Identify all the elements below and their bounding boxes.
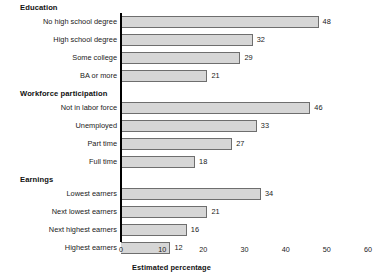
chart-row: Unemployed33 (0, 120, 379, 132)
bar-value-label: 33 (261, 120, 269, 132)
category-label: Full time (89, 156, 117, 168)
bar (121, 156, 195, 168)
value-axis-line (120, 13, 122, 242)
chart-row: Next highest earners16 (0, 224, 379, 236)
group-header: Workforce participation (20, 89, 107, 98)
bar-value-label: 18 (199, 156, 207, 168)
bar-value-label: 21 (211, 70, 219, 82)
chart-row: Part time27 (0, 138, 379, 150)
bar-value-label: 48 (323, 16, 331, 28)
bar-value-label: 21 (211, 206, 219, 218)
chart-row: Next lowest earners21 (0, 206, 379, 218)
category-label: Some college (72, 52, 117, 64)
x-tick-label: 10 (150, 245, 174, 254)
bar-value-label: 16 (191, 224, 199, 236)
bar-value-label: 34 (265, 188, 273, 200)
category-label: Next highest earners (49, 224, 117, 236)
category-label: No high school degree (43, 16, 117, 28)
chart-row: BA or more21 (0, 70, 379, 82)
chart-row: Lowest earners34 (0, 188, 379, 200)
x-tick-label: 50 (315, 245, 339, 254)
x-tick-label: 20 (191, 245, 215, 254)
bar (121, 70, 207, 82)
chart-row: Not in labor force46 (0, 102, 379, 114)
chart-row: Some college29 (0, 52, 379, 64)
x-tick-label: 30 (233, 245, 257, 254)
chart-row: No high school degree48 (0, 16, 379, 28)
bar (121, 138, 232, 150)
category-label: Not in labor force (61, 102, 117, 114)
category-label: BA or more (80, 70, 117, 82)
x-tick-label: 60 (356, 245, 379, 254)
x-tick-label: 0 (109, 245, 133, 254)
bar (121, 52, 240, 64)
x-axis-title-text: Estimated percentage (132, 263, 211, 272)
category-label: Lowest earners (66, 188, 117, 200)
bar (121, 102, 310, 114)
x-axis-baseline (121, 242, 368, 243)
bar-value-label: 29 (244, 52, 252, 64)
bar (121, 16, 319, 28)
chart-row: Full time18 (0, 156, 379, 168)
bar (121, 206, 207, 218)
bar-value-label: 12 (174, 242, 182, 254)
bar (121, 34, 253, 46)
bar (121, 120, 257, 132)
bar (121, 224, 187, 236)
category-label: High school degree (53, 34, 117, 46)
category-label: Unemployed (76, 120, 118, 132)
bar-chart: EducationNo high school degree48High sch… (0, 0, 379, 279)
bar-value-label: 32 (257, 34, 265, 46)
plot-area: EducationNo high school degree48High sch… (0, 0, 379, 279)
category-label: Next lowest earners (52, 206, 117, 218)
x-tick-label: 40 (274, 245, 298, 254)
bar-value-label: 46 (314, 102, 322, 114)
category-label: Part time (87, 138, 117, 150)
x-axis-title: Estimated percentage (0, 263, 379, 272)
group-header: Earnings (20, 175, 53, 184)
group-header: Education (20, 3, 58, 12)
bar-value-label: 27 (236, 138, 244, 150)
bar (121, 188, 261, 200)
chart-row: High school degree32 (0, 34, 379, 46)
